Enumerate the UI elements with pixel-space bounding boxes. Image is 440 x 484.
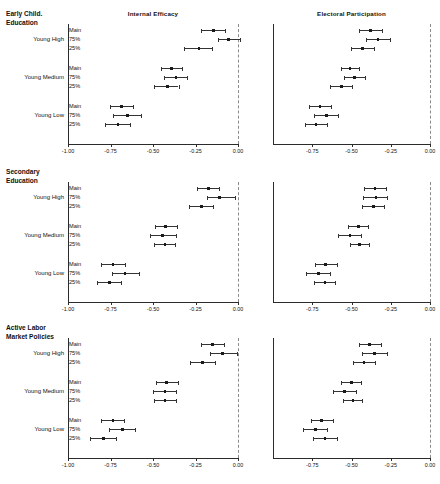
estimate-point (164, 225, 167, 228)
estimate-point (164, 390, 167, 393)
x-tick-label-4: 0.00 (224, 148, 252, 154)
interval-cap-low (109, 428, 110, 432)
interval-cap-high (121, 281, 122, 285)
interval-cap-high (352, 85, 353, 89)
interval-cap-low (164, 76, 165, 80)
interval-cap-low (343, 399, 344, 403)
interval-cap-high (176, 399, 177, 403)
interval-cap-high (178, 381, 179, 385)
interval-cap-low (190, 361, 191, 365)
model-label-1-0: Main (69, 379, 81, 385)
interval-cap-high (384, 205, 385, 209)
interval-cap-low (154, 85, 155, 89)
interval-cap-low (207, 196, 208, 200)
interval-cap-low (314, 114, 315, 118)
group-label-2: Young Low (8, 426, 64, 432)
x-tick-label-3: -0.25 (182, 306, 210, 312)
x-tick-4 (238, 458, 239, 461)
interval-cap-low (101, 263, 102, 267)
estimate-point (121, 428, 124, 431)
interval-cap-low (197, 187, 198, 191)
interval-cap-high (215, 361, 216, 365)
estimate-point (363, 361, 366, 364)
interval-cap-low (210, 352, 211, 356)
estimate-point (319, 105, 322, 108)
x-tick-0 (68, 144, 69, 147)
x-tick-label-0: -0.75 (298, 462, 326, 468)
interval-cap-high (365, 76, 366, 80)
interval-cap-high (187, 76, 188, 80)
x-tick-1 (111, 458, 112, 461)
estimate-point (353, 76, 356, 79)
estimate-point (112, 263, 115, 266)
model-label-2-0: Main (69, 103, 81, 109)
x-tick-label-3: -0.25 (182, 462, 210, 468)
interval-cap-high (361, 234, 362, 238)
interval-cap-high (327, 123, 328, 127)
interval-cap-high (175, 243, 176, 247)
model-label-2-2: 25% (69, 279, 80, 285)
model-label-0-1: 75% (69, 36, 80, 42)
model-label-2-2: 25% (69, 435, 80, 441)
interval-cap-low (154, 243, 155, 247)
x-tick-3 (196, 302, 197, 305)
group-label-1: Young Medium (8, 232, 64, 238)
interval-cap-high (224, 343, 225, 347)
model-label-0-2: 25% (69, 45, 80, 51)
interval-cap-low (348, 225, 349, 229)
interval-cap-high (337, 437, 338, 441)
interval-cap-low (362, 205, 363, 209)
x-tick-0 (312, 458, 313, 461)
x-tick-label-2: -0.50 (139, 462, 167, 468)
interval-cap-high (331, 105, 332, 109)
estimate-point (324, 281, 327, 284)
interval-cap-high (330, 272, 331, 276)
interval-cap-high (333, 419, 334, 423)
y-axis-early_child-electoral_participation (273, 24, 274, 144)
interval-cap-high (337, 263, 338, 267)
x-tick-label-3: 0.00 (416, 462, 440, 468)
x-tick-1 (352, 144, 353, 147)
x-tick-label-1: -0.50 (338, 306, 366, 312)
model-label-0-1: 75% (69, 350, 80, 356)
interval-cap-high (219, 187, 220, 191)
interval-cap-low (306, 272, 307, 276)
x-tick-label-0: -0.75 (298, 306, 326, 312)
interval-cap-low (155, 225, 156, 229)
x-tick-2 (153, 458, 154, 461)
estimate-point (201, 361, 204, 364)
interval-cap-high (335, 281, 336, 285)
estimate-point (375, 196, 378, 199)
interval-cap-low (90, 437, 91, 441)
interval-cap-low (366, 38, 367, 42)
model-label-2-0: Main (69, 417, 81, 423)
estimate-point (102, 437, 105, 440)
interval-cap-high (133, 105, 134, 109)
y-axis-early_child-internal_efficacy (68, 24, 69, 144)
column-title-electoral_participation: Electoral Participation (273, 10, 430, 17)
x-tick-label-2: -0.50 (139, 306, 167, 312)
estimate-point (324, 437, 327, 440)
estimate-point (349, 234, 352, 237)
interval-cap-high (237, 352, 238, 356)
interval-cap-high (374, 47, 375, 51)
zero-reference-line-secondary-electoral_participation (430, 182, 431, 302)
estimate-point (350, 381, 353, 384)
interval-cap-high (375, 361, 376, 365)
interval-cap-high (361, 381, 362, 385)
group-label-1: Young Medium (8, 74, 64, 80)
model-label-1-0: Main (69, 65, 81, 71)
interval-cap-low (110, 105, 111, 109)
interval-cap-high (359, 67, 360, 71)
estimate-point (212, 29, 215, 32)
x-tick-3 (430, 302, 431, 305)
interval-cap-low (154, 399, 155, 403)
zero-reference-line-almp-internal_efficacy (238, 338, 239, 458)
x-tick-label-1: -0.50 (338, 148, 366, 154)
interval-cap-high (369, 243, 370, 247)
estimate-point (211, 343, 214, 346)
x-tick-label-2: -0.25 (377, 148, 405, 154)
interval-cap-low (341, 67, 342, 71)
interval-cap-high (212, 47, 213, 51)
model-label-0-0: Main (69, 27, 81, 33)
